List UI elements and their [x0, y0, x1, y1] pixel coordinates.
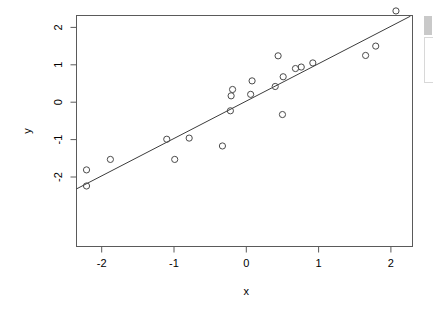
y-axis-title: y [21, 128, 33, 134]
data-point [363, 52, 369, 58]
y-tick-label: 0 [52, 99, 64, 105]
data-point [393, 8, 399, 14]
data-point [275, 53, 281, 59]
data-point [219, 143, 225, 149]
data-point [83, 167, 89, 173]
x-axis-ticks [102, 247, 391, 253]
data-point [292, 65, 298, 71]
x-tick-label: 0 [243, 257, 249, 269]
x-axis-tick-labels: -2 -1 0 1 2 [97, 257, 394, 269]
x-tick-label: 1 [316, 257, 322, 269]
data-point [172, 156, 178, 162]
x-tick-label: -1 [169, 257, 179, 269]
data-points [83, 8, 399, 189]
data-point [373, 43, 379, 49]
data-point [248, 91, 254, 97]
data-point [107, 156, 113, 162]
y-tick-label: -2 [52, 172, 64, 182]
data-point [249, 78, 255, 84]
data-point [298, 64, 304, 70]
x-tick-label: 2 [388, 257, 394, 269]
y-tick-label: 2 [52, 24, 64, 30]
regression-line [76, 16, 410, 189]
data-point [279, 111, 285, 117]
data-point [310, 60, 316, 66]
y-tick-label: 1 [52, 62, 64, 68]
data-point [186, 135, 192, 141]
data-point [280, 74, 286, 80]
data-point [164, 136, 170, 142]
x-tick-label: -2 [97, 257, 107, 269]
x-axis-title: x [244, 285, 250, 297]
data-point [229, 86, 235, 92]
plot-frame [77, 16, 413, 247]
y-axis-tick-labels: -2 -1 0 1 2 [52, 24, 64, 182]
y-axis-ticks [71, 27, 77, 177]
data-point [228, 93, 234, 99]
y-tick-label: -1 [52, 135, 64, 145]
